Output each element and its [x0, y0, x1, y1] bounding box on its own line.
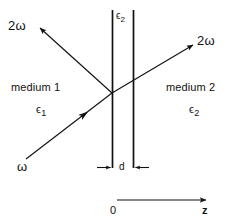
z-axis-label: z	[202, 205, 208, 216]
origin-label: 0	[110, 205, 116, 216]
medium-1-permittivity-label: ϵ1	[36, 104, 46, 118]
medium-1-label: medium 1	[11, 82, 60, 93]
incident-fundamental-label: ω	[17, 160, 27, 173]
medium-2-permittivity-subscript: 2	[194, 108, 199, 118]
physics-diagram-figure: 2ω 2ω ϵ2 medium 1 ϵ1 medium 2 ϵ2 ω d 0 z	[0, 0, 236, 223]
thickness-label: d	[119, 162, 125, 172]
slab-permittivity-subscript: 2	[120, 15, 124, 24]
reflected-harmonic-label: 2ω	[8, 19, 26, 32]
medium-2-label: medium 2	[166, 82, 215, 93]
medium-1-permittivity-subscript: 1	[41, 108, 46, 118]
transmitted-harmonic-label: 2ω	[197, 34, 215, 47]
slab-permittivity-label: ϵ2	[116, 11, 125, 24]
medium-2-permittivity-label: ϵ2	[189, 104, 199, 118]
